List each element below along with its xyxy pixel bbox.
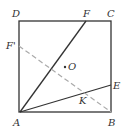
label-f: F xyxy=(82,8,91,19)
label-c: C xyxy=(107,8,115,19)
segment-ae xyxy=(20,85,111,112)
label-a: A xyxy=(12,117,20,128)
label-k: K xyxy=(78,95,87,106)
point-o xyxy=(64,66,66,68)
label-o: O xyxy=(68,61,76,72)
label-d: D xyxy=(11,8,20,19)
geometry-diagram: D F C F' O E K A B xyxy=(0,0,129,131)
label-e: E xyxy=(112,80,121,91)
segment-fprime-b-dashed xyxy=(19,46,111,112)
label-b: B xyxy=(107,117,115,128)
label-fprime: F' xyxy=(5,40,16,51)
